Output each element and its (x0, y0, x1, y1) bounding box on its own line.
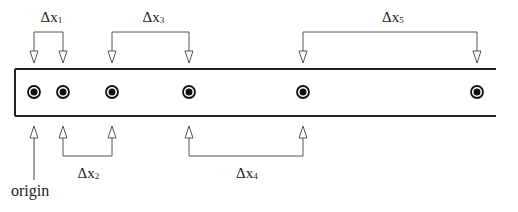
interval-label: Δx5 (382, 9, 404, 25)
dot-1 (28, 86, 40, 98)
interval-dx1: Δx1 (30, 9, 67, 63)
interval-label: Δx3 (143, 9, 165, 25)
origin-marker: origin (11, 126, 49, 200)
interval-dx5: Δx5 (299, 9, 481, 63)
arrow-down-icon (299, 51, 307, 63)
tape-strip (15, 69, 496, 116)
dot-2 (57, 86, 69, 98)
dot-4 (183, 86, 195, 98)
interval-label: Δx4 (236, 165, 258, 181)
interval-dx4: Δx4 (185, 126, 307, 181)
arrow-down-icon (30, 51, 38, 63)
top-interval-brackets: Δx1Δx3Δx5 (30, 9, 481, 63)
ticker-tape-diagram: Δx1Δx3Δx5 Δx2Δx4 origin (0, 0, 518, 212)
interval-dx2: Δx2 (59, 126, 116, 181)
arrow-up-icon (59, 126, 67, 138)
interval-label: Δx1 (41, 9, 63, 25)
arrow-up-icon (185, 126, 193, 138)
dot-3 (106, 86, 118, 98)
arrow-down-icon (59, 51, 67, 63)
arrow-down-icon (185, 51, 193, 63)
dot-6 (471, 86, 483, 98)
interval-dx3: Δx3 (108, 9, 193, 63)
interval-label: Δx2 (78, 165, 100, 181)
origin-label: origin (11, 182, 49, 200)
arrow-up-icon (108, 126, 116, 138)
origin-arrow-icon (30, 126, 38, 138)
arrow-down-icon (473, 51, 481, 63)
bottom-interval-brackets: Δx2Δx4 (59, 126, 307, 181)
dot-5 (297, 86, 309, 98)
dots-group (28, 86, 483, 98)
arrow-down-icon (108, 51, 116, 63)
arrow-up-icon (299, 126, 307, 138)
